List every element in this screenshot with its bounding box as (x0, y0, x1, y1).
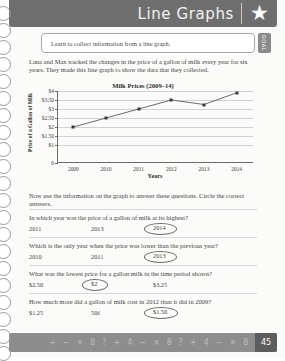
chart-data-point (203, 103, 206, 106)
spiral-binding (0, 0, 9, 358)
intro-paragraph: Lana and Max tracked the changes in the … (29, 58, 257, 75)
answer-circle-mark (144, 223, 177, 235)
star-icon: ★ (248, 2, 271, 25)
answer-option[interactable]: 2011 (91, 253, 103, 260)
footer-symbol: × (76, 338, 83, 347)
binding-ring (0, 295, 11, 310)
goal-text: Learn to collect information from a line… (42, 40, 170, 47)
header-divider (241, 3, 242, 24)
binding-ring (0, 210, 11, 225)
chart-title: Milk Prices (2009–14) (29, 82, 257, 89)
answer-option-label: 50¢ (91, 309, 100, 316)
chart-y-tick-label: $3.50 (42, 97, 54, 103)
binding-ring (0, 108, 11, 123)
answer-option[interactable]: 2014 (144, 223, 175, 233)
chart-y-tick-label: $2.50 (42, 115, 54, 121)
footer-symbol: ? (179, 338, 183, 347)
answer-option-label: $1.25 (29, 309, 43, 316)
binding-ring (0, 57, 11, 72)
footer-symbol: + (190, 338, 197, 347)
answer-option[interactable]: 2011 (29, 225, 41, 232)
answer-option[interactable]: $1.50 (144, 307, 176, 317)
answer-option-label: $3.25 (153, 281, 167, 288)
answer-option[interactable]: $2 (82, 279, 106, 289)
binding-ring (0, 227, 11, 242)
footer-symbol: 8 (167, 338, 172, 347)
binding-ring (0, 312, 11, 327)
binding-ring (0, 278, 11, 293)
chart-y-tick (55, 163, 58, 164)
binding-ring (0, 193, 11, 208)
chart-y-tick-label: $1 (49, 142, 54, 148)
chart-x-axis-label: Years (57, 172, 253, 179)
chart-y-tick-label: $3 (49, 106, 54, 112)
answer-option[interactable]: $1.25 (29, 309, 43, 316)
page-title: Line Graphs (138, 5, 241, 23)
question-options: $2.50$2$3.25 (29, 281, 257, 294)
binding-ring (0, 346, 11, 361)
answer-option[interactable]: $2.50 (29, 281, 43, 288)
footer-symbol: − (63, 338, 70, 347)
footer-symbol: 4 (204, 338, 209, 347)
binding-ring (0, 176, 11, 191)
binding-ring (0, 125, 11, 140)
question-text: In which year was the price of a gallon … (29, 214, 257, 223)
answer-option[interactable]: 2010 (29, 253, 42, 260)
footer-symbol: 4 (127, 338, 132, 347)
question-text: Which is the only year when the price wa… (29, 242, 257, 251)
answer-option[interactable]: 2013 (91, 225, 104, 232)
answer-option[interactable]: $3.25 (153, 281, 167, 288)
footer-symbol: + (113, 338, 120, 347)
answer-option[interactable]: 2013 (144, 251, 175, 261)
binding-ring (0, 40, 11, 55)
question-3: What was the lowest price for a gallon m… (29, 270, 257, 294)
chart-y-tick-label: $4 (49, 88, 54, 94)
chart-y-tick-label: $2 (49, 124, 54, 130)
footer-symbol: − (139, 338, 146, 347)
question-text: How much more did a gallon of milk cost … (29, 298, 257, 307)
footer-symbol: 8 (243, 338, 248, 347)
page-footer: ÷−×8?+4−×8?+4−×8?÷× 45 (9, 333, 277, 352)
binding-ring (0, 74, 11, 89)
answer-option-label: 2011 (29, 225, 41, 232)
goal-box: Learn to collect information from a line… (41, 33, 255, 53)
question-options: $1.2550¢$1.50 (29, 309, 257, 322)
footer-symbol: 8 (90, 338, 95, 347)
question-4: How much more did a gallon of milk cost … (29, 298, 257, 322)
footer-symbol: ÷ (49, 338, 56, 347)
footer-symbol: ? (102, 338, 106, 347)
chart-y-tick-label: 0 (51, 160, 54, 166)
footer-symbol-band: ÷−×8?+4−×8?+4−×8?÷× (49, 333, 277, 352)
binding-ring (0, 91, 11, 106)
chart-data-point (137, 108, 140, 111)
chart-line-series (57, 91, 253, 163)
chart-data-point (105, 117, 108, 120)
question-options: 201120132014 (29, 225, 257, 238)
answer-circle-mark (144, 251, 177, 263)
goal-tab-label: GOAL (262, 35, 268, 51)
chart-y-axis-label: Price of a Gallon of Milk (27, 96, 37, 152)
answer-option-label: $2.50 (29, 281, 43, 288)
answer-option-label: 2010 (29, 253, 42, 260)
answer-circle-mark (144, 307, 178, 319)
footer-symbol: − (216, 338, 223, 347)
chart-data-point (170, 99, 173, 102)
chart-y-tick-label: $1.50 (42, 133, 54, 139)
answer-circle-mark (82, 279, 108, 291)
answer-option-label: 2013 (91, 225, 104, 232)
chart-data-point (235, 91, 238, 94)
page-number: 45 (255, 333, 277, 352)
instructions-text: Now use the information on the graph to … (29, 192, 257, 209)
chart-plot-area: $4$3.50$3$2.50$2$1.50$102009201020112012… (57, 91, 253, 163)
goal-tab: GOAL (258, 33, 271, 53)
page-header: Line Graphs ★ (9, 0, 277, 27)
answer-option[interactable]: 50¢ (91, 309, 100, 316)
question-options: 201020112013 (29, 253, 257, 266)
binding-ring (0, 142, 11, 157)
line-chart: Milk Prices (2009–14) Price of a Gallon … (29, 82, 257, 182)
binding-ring (0, 261, 11, 276)
question-1: In which year was the price of a gallon … (29, 214, 257, 238)
binding-ring (0, 23, 11, 38)
question-2: Which is the only year when the price wa… (29, 242, 257, 266)
